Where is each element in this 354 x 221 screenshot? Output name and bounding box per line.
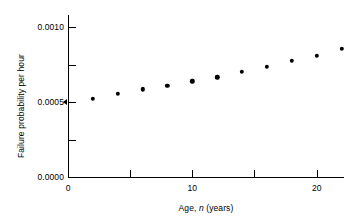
data-point (116, 92, 120, 96)
data-point (339, 47, 343, 51)
x-tick-4 (317, 170, 318, 177)
x-tick-1 (130, 170, 131, 177)
y-axis-line (68, 15, 69, 178)
data-point (240, 70, 244, 74)
x-axis-line (68, 177, 344, 178)
x-tick-label-2: 10 (172, 183, 212, 193)
y-tick-label-0: 0.0000 (2, 172, 64, 182)
x-tick-2 (192, 170, 193, 177)
data-point (314, 53, 318, 57)
figure: Failure probability per hour Age, n (yea… (0, 0, 354, 221)
data-point (190, 79, 194, 83)
y-tick-1 (69, 140, 76, 141)
y-tick-4 (69, 27, 76, 28)
data-point (91, 97, 95, 101)
data-point (265, 65, 269, 69)
data-point (165, 83, 169, 87)
data-point (290, 59, 294, 63)
y-tick-label-4: 0.0010 (2, 22, 64, 32)
data-point (215, 75, 219, 79)
x-tick-3 (254, 170, 255, 177)
y-tick-2 (69, 102, 76, 103)
data-point (140, 87, 144, 91)
y-tick-3 (69, 65, 76, 66)
plot-area: 0.00000.00050.001001020 (0, 0, 354, 221)
y-tick-label-2: 0.0005 (2, 97, 64, 107)
y-axis-arrow-marker (63, 99, 67, 105)
x-tick-label-0: 0 (48, 183, 88, 193)
x-tick-label-4: 20 (297, 183, 337, 193)
